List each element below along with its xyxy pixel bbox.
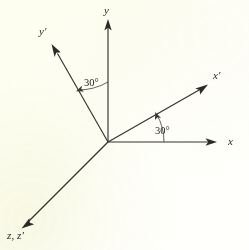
z-axis-group	[22, 142, 109, 229]
x-prime-axis-arrowhead	[195, 85, 208, 95]
angle-label-y-to-yprime: 30°	[84, 78, 99, 89]
coordinate-axes-figure: y x y′ x′ z, z′ 30° 30°	[0, 0, 249, 250]
y-prime-axis-group	[52, 44, 109, 142]
x-axis-group	[108, 138, 217, 145]
y-prime-axis-label: y′	[39, 26, 47, 37]
x-axis-label: x	[228, 136, 233, 147]
z-axis-label: z, z′	[7, 230, 24, 241]
x-prime-axis-line	[108, 90, 200, 143]
z-axis-line	[29, 142, 109, 222]
axes-drawing	[0, 0, 249, 250]
y-axis-label: y	[104, 5, 109, 16]
y-prime-axis-line	[58, 54, 109, 143]
x-prime-axis-label: x′	[213, 70, 221, 81]
y-axis-group	[104, 19, 111, 142]
z-axis-arrowhead	[22, 218, 35, 228]
y-prime-axis-arrowhead	[52, 44, 61, 57]
angle-label-x-to-xprime: 30°	[155, 126, 170, 137]
